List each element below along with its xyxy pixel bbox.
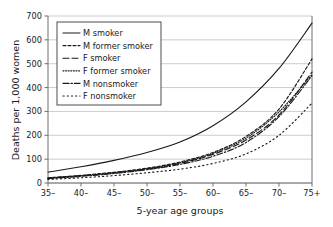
chart-legend: M smokerM former smokerF smokerF former … — [57, 22, 161, 105]
y-tick-label: 600 — [26, 35, 42, 45]
y-tick-label: 300 — [26, 106, 42, 116]
x-axis-title: 5-year age groups — [137, 205, 224, 216]
y-tick-label: 700 — [26, 11, 42, 21]
x-tick-label: 65– — [239, 188, 254, 198]
line-chart: 0100200300400500600700 35–40–45–50–55–60… — [0, 0, 333, 227]
x-tick-label: 60– — [206, 188, 221, 198]
x-tick-label: 75+ — [303, 188, 320, 198]
y-tick-label: 400 — [26, 83, 42, 93]
chart-container: 0100200300400500600700 35–40–45–50–55–60… — [0, 0, 333, 227]
legend-item-label: F nonsmoker — [83, 91, 136, 101]
legend-item-label: M nonsmoker — [83, 79, 139, 89]
x-tick-label: 70– — [272, 188, 287, 198]
y-tick-label: 0 — [37, 178, 42, 188]
y-tick-label: 500 — [26, 59, 42, 69]
x-tick-label: 40– — [74, 188, 89, 198]
legend-item-label: M smoker — [83, 28, 123, 38]
legend-item-label: F smoker — [83, 53, 121, 63]
legend-item-label: F former smoker — [83, 66, 151, 76]
y-tick-label: 100 — [26, 154, 42, 164]
x-tick-label: 50– — [140, 188, 155, 198]
x-tick-label: 35– — [41, 188, 56, 198]
y-tick-label: 200 — [26, 130, 42, 140]
x-tick-label: 55– — [173, 188, 188, 198]
y-axis-title: Deaths per 1,000 women — [10, 40, 21, 160]
x-tick-label: 45– — [107, 188, 122, 198]
legend-item-label: M former smoker — [83, 41, 153, 51]
